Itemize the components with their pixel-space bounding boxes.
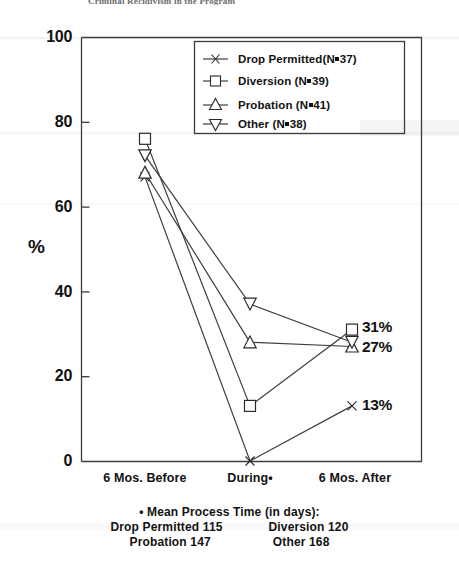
legend-label-drop-permitted: Drop Permitted(N37) [238,53,357,65]
legend-label-diversion-pre: Diversion (N [238,75,307,87]
legend-label-other-post: 38) [290,118,307,130]
legend-label-other: Other (N38) [238,118,307,130]
footnote-drop-permitted: Drop Permitted 115 [110,520,222,534]
footnote-diversion: Diversion 120 [269,520,349,534]
footnote-row-1: Drop Permitted 115Diversion 120 [0,520,459,534]
legend-label-drop-permitted-post: 37) [340,53,357,65]
legend-marker-x-marker [203,55,228,64]
y-tick-label-60: 60 [28,198,72,216]
data-label-drop-permitted-after: 13% [362,396,392,414]
legend-label-other-pre: Other (N [238,118,285,130]
series-line-drop-permitted [145,177,352,461]
legend-label-probation-post: 41) [313,99,330,111]
legend-label-probation-pre: Probation (N [238,99,308,111]
x-tick-label-during: During• [200,471,300,485]
x-tick-label-after: 6 Mos. After [295,471,415,485]
y-axis-ticks [82,122,90,376]
legend-marker-triangle-up-marker [203,99,228,110]
legend-label-diversion-post: 39) [312,75,329,87]
footnote-row-2: Probation 147Other 168 [0,535,459,549]
series-line-diversion [145,139,352,406]
x-tick-label-before: 6 Mos. Before [85,471,205,485]
marker-diversion [140,133,358,411]
legend-label-drop-permitted-pre: Drop Permitted(N [238,53,335,65]
data-label-diversion-after: 31% [362,318,392,336]
y-tick-label-20: 20 [28,367,72,385]
equals-glyph-icon [307,79,311,83]
footnote-heading: • Mean Process Time (in days): [0,505,459,519]
series-line-other [145,156,352,343]
legend-marker-square-marker [203,76,228,86]
equals-glyph-icon [285,122,289,126]
y-tick-label-40: 40 [28,283,72,301]
y-tick-label-100: 100 [28,28,72,46]
legend-label-probation: Probation (N41) [238,99,330,111]
equals-glyph-icon [335,57,339,61]
y-axis-title: % [28,236,44,258]
legend-marker-triangle-down-marker [203,120,228,131]
y-tick-label-80: 80 [28,113,72,131]
footnote-other: Other 168 [273,535,330,549]
legend-label-diversion: Diversion (N39) [238,75,329,87]
y-tick-label-0: 0 [28,452,72,470]
data-label-probation-after: 27% [362,338,392,356]
footnote-probation: Probation 147 [129,535,210,549]
